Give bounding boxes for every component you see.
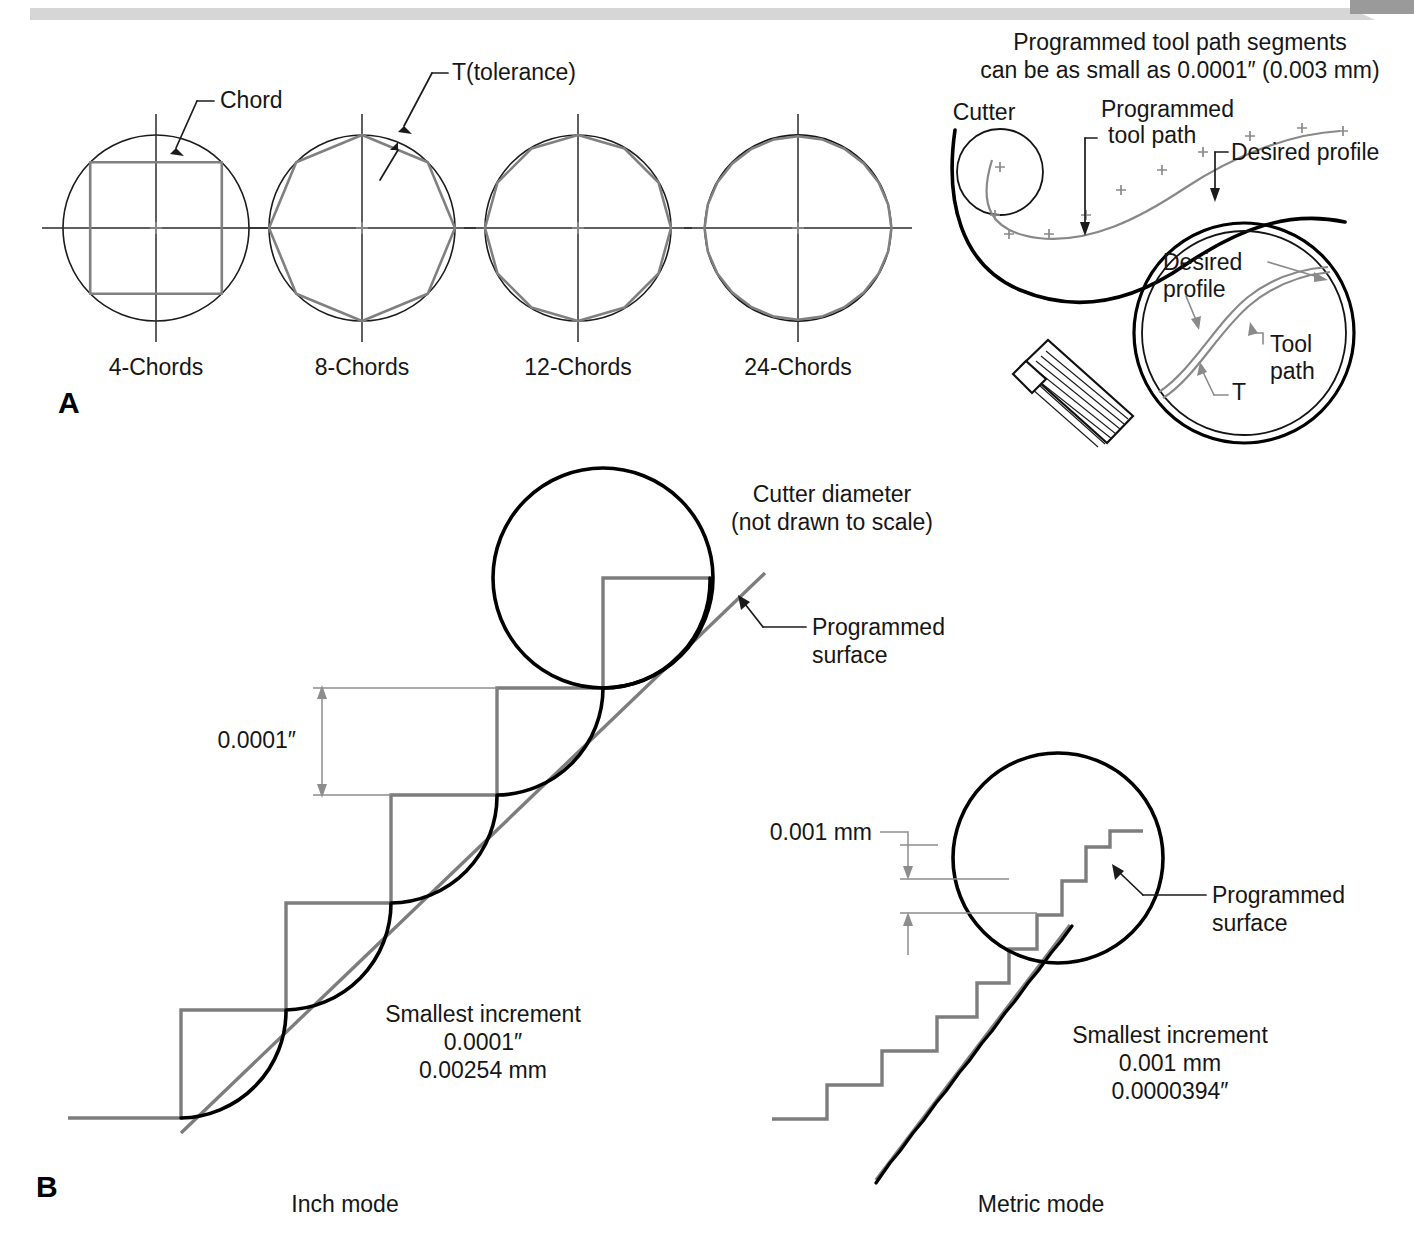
metric-increment-value-1: 0.001 mm: [1119, 1050, 1221, 1076]
chord-circle-24: 24-Chords: [684, 114, 912, 380]
desired-profile-label: Desired profile: [1231, 139, 1379, 165]
chord-caption-8: 8-Chords: [315, 354, 410, 380]
panel-a-letter: A: [58, 386, 80, 419]
panel-a-chord-circles: 4-Chords 8-Chords 12-Chords: [42, 59, 912, 419]
magnifier-tool-label-2: path: [1270, 358, 1315, 384]
chord-circle-12: 12-Chords: [464, 114, 692, 380]
metric-surface-label-1: Programmed: [1212, 882, 1345, 908]
magnifier-tolerance-label: T: [1232, 379, 1246, 405]
metric-surface-label-2: surface: [1212, 910, 1287, 936]
metric-mode-caption: Metric mode: [978, 1191, 1105, 1217]
metric-cutter-scallops: [876, 926, 1072, 1183]
toolpath-heading-line2: can be as small as 0.0001″ (0.003 mm): [980, 57, 1379, 83]
inch-step-dimension: 0.0001″: [218, 685, 498, 798]
figure-root: 4-Chords 8-Chords 12-Chords: [0, 0, 1414, 1250]
programmed-toolpath-label-2: tool path: [1108, 122, 1196, 148]
inch-surface-label-2: surface: [812, 642, 887, 668]
toolpath-heading-line1: Programmed tool path segments: [1013, 29, 1347, 55]
cutter-label: Cutter: [953, 99, 1016, 125]
inch-increment-value-2: 0.00254 mm: [419, 1057, 547, 1083]
figure-canvas: 4-Chords 8-Chords 12-Chords: [0, 0, 1414, 1250]
inch-increment-value-1: 0.0001″: [444, 1029, 523, 1055]
inch-surface-label-1: Programmed: [812, 614, 945, 640]
metric-increment-title: Smallest increment: [1072, 1022, 1268, 1048]
tolerance-callout-label: T(tolerance): [452, 59, 576, 85]
programmed-toolpath-label-1: Programmed: [1101, 96, 1234, 122]
inch-increment-title: Smallest increment: [385, 1001, 581, 1027]
inch-stair-steps: [68, 578, 710, 1118]
magnifier-handle: [1013, 340, 1133, 447]
metric-step-dimension-upper: 0.001 mm: [770, 819, 1009, 880]
chord-caption-4: 4-Chords: [109, 354, 204, 380]
chord-caption-24: 24-Chords: [744, 354, 851, 380]
chord-callout: Chord: [170, 87, 283, 156]
inch-cutter-label-1: Cutter diameter: [753, 481, 912, 507]
panel-a-toolpath: Programmed tool path segments can be as …: [952, 29, 1380, 447]
metric-step-dimension-label: 0.001 mm: [770, 819, 872, 845]
magnifier-tool-label-1: Tool: [1270, 331, 1312, 357]
tolerance-callout: T(tolerance): [380, 59, 576, 180]
metric-cutter-circle: [953, 753, 1163, 963]
inch-surface-callout: Programmed surface: [738, 595, 945, 668]
metric-surface-callout: Programmed surface: [1112, 864, 1345, 936]
desired-profile-callout: Desired profile: [1210, 139, 1379, 202]
magnifier-desired-label-1: Desired: [1163, 249, 1242, 275]
panel-b-metric: 0.001 mm Programmed surface Smallest inc…: [770, 753, 1345, 1217]
inch-mode-caption: Inch mode: [291, 1191, 398, 1217]
chord-circle-8: 8-Chords: [248, 114, 476, 380]
inch-cutter-label-2: (not drawn to scale): [731, 509, 933, 535]
inch-step-dimension-label: 0.0001″: [218, 727, 297, 753]
magnifier-desired-label-2: profile: [1163, 276, 1226, 302]
programmed-toolpath-callout: Programmed tool path: [1080, 96, 1234, 236]
page-edge-artifact: [30, 0, 1414, 20]
chord-caption-12: 12-Chords: [524, 354, 631, 380]
chord-callout-label: Chord: [220, 87, 283, 113]
metric-increment-value-2: 0.0000394″: [1112, 1078, 1229, 1104]
magnifier: Desired profile Tool path T: [1013, 223, 1354, 447]
panel-b-letter: B: [36, 1170, 58, 1203]
chord-circle-4: 4-Chords: [42, 114, 270, 380]
